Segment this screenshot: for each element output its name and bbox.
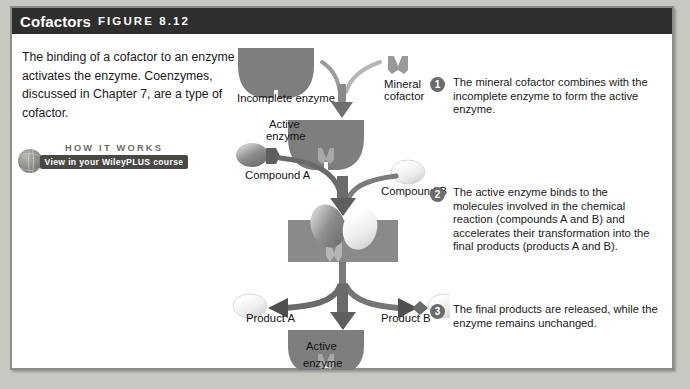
figure-page: Cofactors FIGURE 8.12 The binding of a c… xyxy=(0,0,690,389)
page-title: Cofactors xyxy=(20,13,91,30)
label-product-a: Product A xyxy=(246,312,295,325)
step-item-1: 1 The mineral cofactor combines with the… xyxy=(430,76,658,117)
step-number-badge: 2 xyxy=(430,187,445,202)
compound-a-shape xyxy=(236,143,280,167)
step-item-2: 2 The active enzyme binds to the molecul… xyxy=(430,186,658,254)
step-item-3: 3 The final products are released, while… xyxy=(430,303,658,330)
intro-paragraph: The binding of a cofactor to an enzyme a… xyxy=(22,48,240,122)
mineral-cofactor-shape xyxy=(388,56,408,74)
globe-icon xyxy=(18,149,42,173)
label-mineral-cofactor-2: cofactor xyxy=(384,90,424,103)
figure-header-bar: Cofactors FIGURE 8.12 xyxy=(12,8,672,34)
how-it-works-badge[interactable]: HOW IT WORKS View in your WileyPLUS cour… xyxy=(18,143,188,173)
wileyplus-link-button[interactable]: View in your WileyPLUS course xyxy=(40,155,188,169)
merge-arrow-top xyxy=(322,62,380,118)
step-text: The active enzyme binds to the molecules… xyxy=(453,186,658,254)
incomplete-enzyme-shape xyxy=(238,48,314,98)
label-active-enzyme-bottom-1: Active xyxy=(306,340,337,353)
step-text: The final products are released, while t… xyxy=(453,303,658,330)
how-it-works-heading: HOW IT WORKS xyxy=(65,143,163,153)
step-text: The mineral cofactor combines with the i… xyxy=(453,76,658,117)
label-incomplete-enzyme: Incomplete enzyme xyxy=(237,92,335,105)
compound-b-shape xyxy=(391,160,425,184)
label-compound-a: Compound A xyxy=(245,169,310,182)
step-number-badge: 1 xyxy=(430,77,445,92)
figure-number-label: FIGURE 8.12 xyxy=(98,15,190,27)
label-product-b: Product B xyxy=(381,312,431,325)
label-active-enzyme-top-2: enzyme xyxy=(266,130,306,143)
step-number-badge: 3 xyxy=(430,304,445,319)
label-active-enzyme-bottom-2: enzyme xyxy=(303,357,343,370)
